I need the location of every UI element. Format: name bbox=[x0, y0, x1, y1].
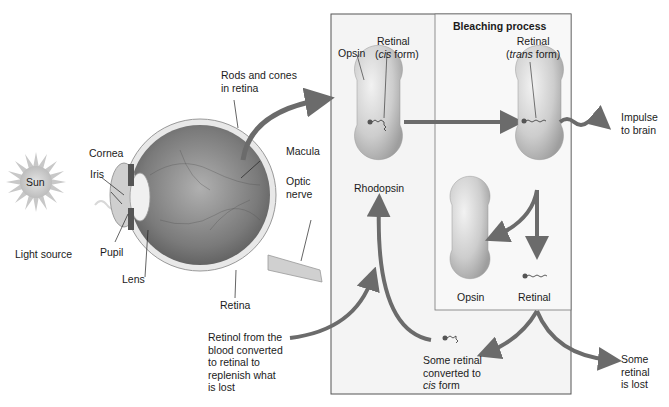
cornea-label: Cornea bbox=[89, 147, 123, 160]
rhodopsin-molecule bbox=[355, 45, 403, 159]
opsin-molecule bbox=[450, 176, 490, 278]
eye-illustration bbox=[110, 119, 322, 282]
pupil-label: Pupil bbox=[100, 246, 123, 259]
macula-label: Macula bbox=[286, 145, 320, 158]
opsin-top-label: Opsin bbox=[338, 47, 365, 60]
trans-rhodopsin-molecule bbox=[516, 45, 564, 159]
retina-label: Retina bbox=[220, 299, 250, 312]
light-source-label: Light source bbox=[15, 248, 72, 261]
bleaching-title: Bleaching process bbox=[453, 20, 546, 33]
diagram-artwork bbox=[0, 0, 669, 407]
free-retinal-label: Retinal bbox=[518, 291, 551, 304]
optic-nerve-label: Optic nerve bbox=[286, 175, 312, 200]
cis-conversion-label: Some retinal converted to cis form bbox=[423, 354, 482, 392]
rods-cones-label: Rods and cones in retina bbox=[221, 69, 297, 94]
retinal-cis-label: Retinal (cis form) bbox=[375, 35, 419, 60]
retinal-lost-label: Some retinal is lost bbox=[621, 353, 650, 391]
sun-label: Sun bbox=[26, 176, 45, 189]
iris-label: Iris bbox=[90, 168, 104, 181]
lens-label: Lens bbox=[122, 273, 145, 286]
retinol-label: Retinol from the blood converted to reti… bbox=[208, 331, 283, 394]
retinal-trans-label: Retinal (trans form) bbox=[506, 35, 560, 60]
rhodopsin-label: Rhodopsin bbox=[354, 182, 404, 195]
opsin-bottom-label: Opsin bbox=[457, 291, 484, 304]
impulse-label: Impulse to brain bbox=[621, 111, 658, 136]
